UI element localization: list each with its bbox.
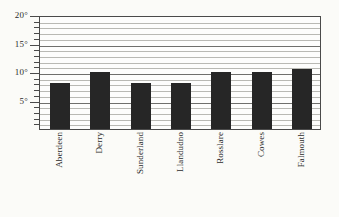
x-axis-label-slot: Rosslare <box>200 132 240 217</box>
x-axis-tick-label: Falmouth <box>296 132 305 167</box>
x-axis-label-slot: Sunderland <box>120 132 160 217</box>
y-tick-major <box>30 45 39 46</box>
y-tick-major <box>30 73 39 74</box>
x-axis-tick-label: Aberdeen <box>55 132 64 168</box>
bar <box>171 83 191 129</box>
bars-group <box>40 17 320 129</box>
bar <box>131 83 151 129</box>
bar-chart-figure: 5°10°15°20° AberdeenDerrySunderlandLland… <box>0 0 339 217</box>
plot-area <box>39 16 321 130</box>
y-axis: 5°10°15°20° <box>0 16 39 130</box>
bar <box>90 72 110 129</box>
x-axis-tick-label: Sunderland <box>135 132 144 174</box>
y-axis-tick-label: 15° <box>15 40 28 49</box>
x-axis-label-slot: Aberdeen <box>39 132 79 217</box>
x-axis-label-slot: Falmouth <box>281 132 321 217</box>
x-axis-tick-label: Cowes <box>256 132 265 157</box>
y-axis-tick-label: 20° <box>15 11 28 20</box>
x-axis-label-slot: Cowes <box>240 132 280 217</box>
y-tick-major <box>30 102 39 103</box>
y-tick-major <box>30 16 39 17</box>
x-axis-label-slot: Derry <box>79 132 119 217</box>
bar <box>211 72 231 129</box>
x-axis: AberdeenDerrySunderlandLlandudnoRosslare… <box>39 132 321 217</box>
x-axis-label-slot: Llandudno <box>160 132 200 217</box>
bar <box>252 72 272 129</box>
y-axis-tick-label: 10° <box>15 68 28 77</box>
y-axis-tick-label: 5° <box>20 97 29 106</box>
x-axis-tick-label: Rosslare <box>216 132 225 164</box>
bar <box>292 69 312 129</box>
bar <box>50 83 70 129</box>
x-axis-tick-label: Llandudno <box>175 132 184 172</box>
x-axis-tick-label: Derry <box>95 132 104 154</box>
